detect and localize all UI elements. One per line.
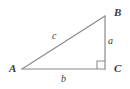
vertex-label-a: A (9, 63, 16, 74)
vertex-label-c: C (114, 63, 121, 74)
vertex-label-b: B (114, 7, 121, 18)
side-label-a: a (108, 36, 113, 46)
side-c-hypotenuse-line (22, 16, 105, 69)
side-label-b: b (61, 74, 66, 84)
side-label-c: c (52, 31, 56, 41)
right-angle-marker-icon (97, 61, 105, 69)
right-triangle-figure: A B C a b c (0, 0, 130, 89)
